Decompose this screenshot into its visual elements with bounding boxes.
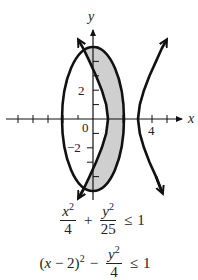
origin-label: 0 [82,120,89,135]
fraction-y-squared-over-4: y2 4 [106,247,122,280]
exponent: 2 [69,201,74,212]
plus-operator: + [84,212,92,229]
less-equal-sign: ≤ [124,212,132,229]
x-axis-label: x [187,111,195,126]
denominator: 4 [64,221,72,237]
denominator: 25 [101,221,116,237]
exponent: 2 [80,253,85,264]
exponent: 2 [109,201,114,212]
minus-operator: − [90,255,98,272]
y-axis-label: y [86,9,95,24]
inequality-hyperbola: (x − 2)2 − y2 4 ≤ 1 [0,247,198,280]
rhs-value: 1 [137,212,145,229]
binomial-rest: − 2) [51,255,79,271]
less-equal-sign: ≤ [130,255,138,272]
numerator-var: y [108,246,115,262]
squared-binomial: (x − 2)2 [39,255,84,272]
exponent: 2 [115,244,120,255]
denominator: 4 [110,264,118,280]
y-tick-label-2: 2 [78,83,85,98]
fraction-y-squared-over-25: y2 25 [100,204,116,237]
numerator-var: x [62,203,69,219]
inequality-ellipse: x2 4 + y2 25 ≤ 1 [0,204,198,237]
y-tick-label-neg2: −2 [67,140,81,155]
rhs-value: 1 [143,255,151,272]
fraction-x-squared-over-4: x2 4 [60,204,76,237]
x-tick-label-4: 4 [148,123,155,138]
